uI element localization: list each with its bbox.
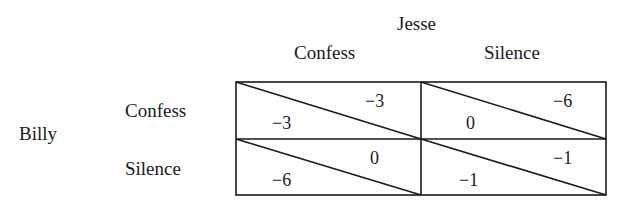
cell-ss-row-payoff: −1 bbox=[459, 171, 478, 189]
cell-sc-row-payoff: −6 bbox=[272, 171, 291, 189]
cell-cc-col-payoff: −3 bbox=[365, 92, 384, 110]
payoff-grid bbox=[0, 0, 630, 214]
cell-cs-col-payoff: −6 bbox=[553, 92, 572, 110]
cell-sc-col-payoff: 0 bbox=[370, 149, 379, 167]
cell-cc-row-payoff: −3 bbox=[272, 114, 291, 132]
cell-cs-row-payoff: 0 bbox=[466, 114, 475, 132]
cell-ss-col-payoff: −1 bbox=[553, 149, 572, 167]
